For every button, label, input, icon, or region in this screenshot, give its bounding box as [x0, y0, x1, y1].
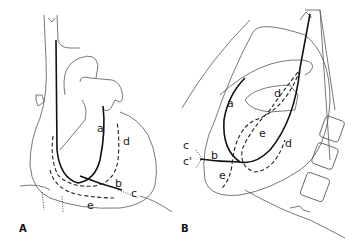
- signature: [290, 206, 310, 212]
- vertebra-2: [311, 142, 339, 170]
- label-e: e: [87, 199, 94, 212]
- panel-label-b: B: [181, 223, 189, 234]
- label-a-b: a: [227, 97, 234, 110]
- diaphragm-left: [20, 185, 50, 190]
- catheter-b-b: [200, 159, 240, 162]
- pulmonary-artery: [80, 77, 123, 110]
- diaphragm-right: [140, 196, 172, 212]
- label-d: d: [123, 135, 130, 148]
- label-e-b: e: [259, 127, 266, 140]
- vertebra-3: [300, 172, 331, 203]
- panel-b: a d e d c b c' e B: [181, 10, 345, 238]
- label-c: c: [131, 187, 137, 200]
- catheter-a-b: [224, 14, 310, 163]
- diaphragm-b: [245, 190, 345, 238]
- label-d-b: d: [274, 87, 281, 100]
- label-c-b: c: [183, 139, 189, 152]
- label-b: b: [115, 177, 122, 190]
- catheter-d: [52, 122, 119, 186]
- right-pa-stub: [36, 95, 44, 106]
- label-d2-b: d: [285, 137, 292, 150]
- panel-a: a d b c e A: [19, 15, 172, 234]
- label-c-prime-b: c': [183, 155, 192, 168]
- label-e2-b: e: [219, 169, 226, 182]
- label-a: a: [97, 122, 104, 135]
- label-b-b: b: [211, 149, 218, 162]
- svc-right-wall: [57, 15, 80, 48]
- septum-line: [60, 100, 86, 150]
- heart-outline: [30, 112, 156, 208]
- pulmonary-veins: [245, 85, 298, 112]
- aorta-descending: [305, 10, 335, 160]
- chest-wall: [182, 20, 250, 108]
- panel-label-a: A: [19, 223, 27, 234]
- aortic-arch: [64, 56, 98, 95]
- catheter-e: [50, 170, 115, 198]
- svc-arrow: [48, 18, 55, 22]
- heart-diagram: a d b c e A a d e d c b c' e B: [0, 0, 355, 246]
